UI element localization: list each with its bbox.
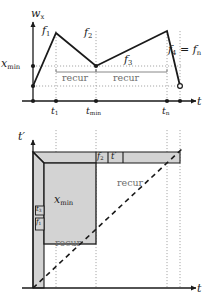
top-band-region	[33, 152, 180, 163]
figure-container: wx t xmin f1 f2 f3 f4 = fn recur recur t…	[0, 0, 220, 307]
strip-label-t3: t3	[36, 206, 42, 213]
segment-label-f1: f1	[42, 25, 50, 38]
strip-label-f1: f1	[36, 219, 41, 226]
upper-x-axis-label: t	[197, 96, 201, 107]
lower-panel	[22, 130, 196, 288]
tick-label-tmin: tmin	[86, 106, 101, 117]
curve-start-dot	[31, 84, 35, 88]
lower-x-axis-label: t	[197, 283, 201, 294]
upper-horizontal-guides	[33, 66, 182, 86]
lower-y-axis-label: t′	[18, 131, 25, 142]
segment-label-f4-fn: f4 = fn	[168, 44, 201, 57]
curve-end-open-circle	[178, 84, 183, 89]
recur-label-lower-left: recur	[55, 238, 81, 248]
recur-label-upper-left: recur	[62, 73, 88, 83]
recur-label-upper-right: recur	[113, 73, 139, 83]
box-label-tprime: t′	[111, 152, 116, 161]
xmin-tick-dot	[31, 64, 35, 68]
curve-min-dot	[94, 64, 98, 68]
segment-label-f2: f2	[84, 27, 92, 40]
tick-label-t1: t1	[51, 106, 59, 117]
box-label-f2: f2	[97, 152, 104, 162]
wx-curve	[33, 31, 180, 86]
xmin-axis-label: xmin	[1, 58, 20, 71]
segment-label-f3: f3	[124, 54, 132, 67]
recur-label-lower-right: recur	[117, 178, 143, 188]
tick-label-tn: tn	[162, 106, 170, 117]
upper-y-axis-label: wx	[31, 8, 44, 21]
region-label-xmin: xmin	[54, 194, 73, 207]
